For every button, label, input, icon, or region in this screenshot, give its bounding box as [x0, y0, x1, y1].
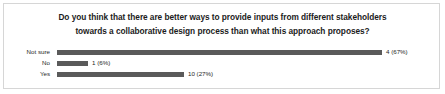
value-label-no: 1 (6%)	[92, 58, 110, 68]
bar-not-sure	[57, 50, 382, 55]
chart-title: Do you think that there are better ways …	[14, 11, 431, 38]
bar-chart-plot-area: Not sure 4 (67%) No 1 (6%) Yes 10 (27%)	[4, 47, 439, 88]
bar-row-not-sure: Not sure 4 (67%)	[4, 47, 439, 57]
category-label-no: No	[4, 58, 50, 68]
value-label-not-sure: 4 (67%)	[386, 47, 408, 57]
bar-row-yes: Yes 10 (27%)	[4, 69, 439, 79]
category-label-yes: Yes	[4, 69, 50, 79]
chart-title-line-1: Do you think that there are better ways …	[14, 11, 431, 25]
category-label-not-sure: Not sure	[4, 47, 50, 57]
value-label-yes: 10 (27%)	[188, 69, 213, 79]
bar-yes	[57, 72, 184, 77]
chart-card: Do you think that there are better ways …	[3, 3, 440, 89]
bar-no	[57, 61, 88, 66]
bar-row-no: No 1 (6%)	[4, 58, 439, 68]
chart-title-line-2: towards a collaborative design process t…	[14, 25, 431, 39]
